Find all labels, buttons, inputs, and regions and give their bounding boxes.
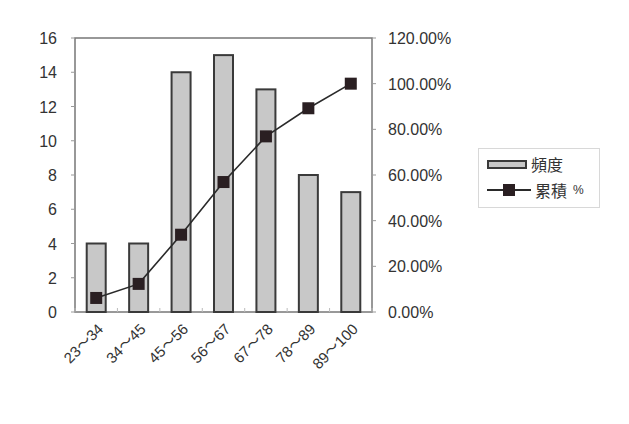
square-marker-icon <box>90 292 102 304</box>
x-axis-categories: 23～3434～4545～5656～6767～7878～8989～100 <box>60 320 361 372</box>
square-marker-icon <box>302 102 314 114</box>
right-tick-label: 20.00% <box>388 258 442 275</box>
bar <box>129 244 148 313</box>
right-tick-label: 60.00% <box>388 167 442 184</box>
line-marker-swatch-icon <box>487 183 531 197</box>
legend-item-cumulative: 累積 % <box>487 179 584 201</box>
legend-item-frequency: 頻度 <box>487 153 563 175</box>
square-marker-icon <box>218 176 230 188</box>
left-tick-label: 4 <box>48 236 57 253</box>
square-marker-icon <box>345 78 357 90</box>
category-label: 56～67 <box>187 320 233 366</box>
legend-label-cumulative: 累積 <box>535 178 567 202</box>
left-y-axis: 0246810121416 <box>39 30 75 321</box>
right-tick-label: 0.00% <box>388 304 433 321</box>
bar <box>341 192 360 312</box>
category-label: 89～100 <box>309 320 361 372</box>
left-tick-label: 14 <box>39 64 57 81</box>
pareto-chart: 0246810121416 0.00%20.00%40.00%60.00%80.… <box>0 0 629 424</box>
square-marker-icon <box>260 130 272 142</box>
left-tick-label: 6 <box>48 201 57 218</box>
bar-swatch-icon <box>487 160 527 169</box>
left-tick-label: 12 <box>39 99 57 116</box>
left-tick-label: 2 <box>48 270 57 287</box>
category-label: 45～56 <box>145 320 191 366</box>
category-label: 67～78 <box>230 320 276 366</box>
right-tick-label: 80.00% <box>388 121 442 138</box>
right-tick-label: 100.00% <box>388 76 451 93</box>
category-label: 23～34 <box>60 320 106 366</box>
left-tick-label: 16 <box>39 30 57 47</box>
bar <box>256 89 275 312</box>
left-tick-label: 0 <box>48 304 57 321</box>
legend-label-percent: % <box>573 183 584 197</box>
bar <box>299 175 318 312</box>
square-marker-icon <box>175 229 187 241</box>
right-tick-label: 120.00% <box>388 30 451 47</box>
square-marker-icon <box>133 278 145 290</box>
right-y-axis: 0.00%20.00%40.00%60.00%80.00%100.00%120.… <box>372 30 451 321</box>
category-label: 34～45 <box>103 320 149 366</box>
right-tick-label: 40.00% <box>388 213 442 230</box>
left-tick-label: 10 <box>39 133 57 150</box>
left-tick-label: 8 <box>48 167 57 184</box>
legend-label-frequency: 頻度 <box>531 152 563 176</box>
legend: 頻度 累積 % <box>478 148 600 208</box>
bar <box>172 72 191 312</box>
